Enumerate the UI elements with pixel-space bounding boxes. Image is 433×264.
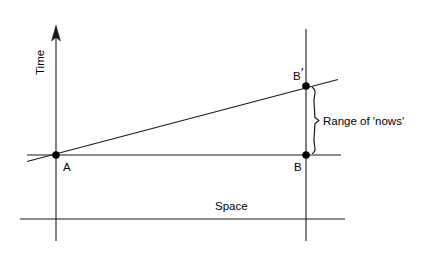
point-bprime-prime-icon: ′ <box>301 65 304 80</box>
range-of-nows-brace <box>313 88 320 154</box>
time-axis-label: Time <box>34 50 46 75</box>
point-a-marker <box>52 151 59 158</box>
range-of-nows-label: Range of 'nows' <box>323 115 404 127</box>
space-axis-label: Space <box>215 200 248 212</box>
worldline-slanted <box>27 80 338 162</box>
point-b-label: B <box>294 161 302 173</box>
point-bprime-marker <box>302 82 309 89</box>
spacetime-diagram-figure: Time Space A B B ′ Range of 'nows' <box>0 0 433 264</box>
point-bprime-label: B <box>293 70 301 82</box>
point-b-marker <box>302 151 309 158</box>
diagram-canvas: Time Space A B B ′ Range of 'nows' <box>0 0 433 264</box>
point-a-label: A <box>63 161 71 173</box>
